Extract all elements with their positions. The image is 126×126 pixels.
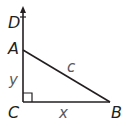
label-a: A xyxy=(7,39,19,58)
label-c: C xyxy=(8,103,20,122)
label-y: y xyxy=(8,71,19,89)
label-x: x xyxy=(58,104,68,122)
arrowhead-icon xyxy=(20,6,26,13)
label-b: B xyxy=(111,103,122,122)
triangle-diagram: D A C B y x c xyxy=(0,0,126,126)
label-d: D xyxy=(8,13,20,32)
right-angle-marker xyxy=(23,93,32,102)
label-c-side: c xyxy=(67,58,76,76)
